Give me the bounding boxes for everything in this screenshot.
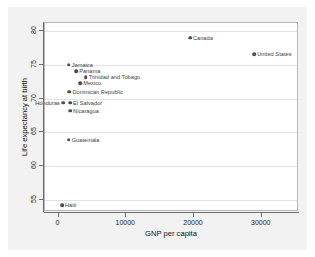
y-tick-mark (39, 131, 43, 132)
data-point-label: Canada (193, 35, 213, 41)
gridline-y (45, 166, 297, 167)
x-tick-label: 30000 (251, 219, 270, 226)
data-point-label: Haiti (65, 202, 76, 208)
y-tick-mark (39, 199, 43, 200)
y-axis-line (43, 22, 44, 212)
data-point-label: Mexico (83, 80, 101, 86)
data-point-label: Nicaragua (73, 108, 99, 114)
data-point-marker[interactable] (68, 109, 72, 113)
y-tick-label: 60 (30, 161, 37, 169)
x-tick-label: 20000 (183, 219, 202, 226)
data-point-marker[interactable] (74, 69, 78, 73)
data-point-label: Dominican Republic (72, 89, 123, 95)
gridline-y (45, 200, 297, 201)
data-point-marker[interactable] (252, 52, 256, 56)
data-point-marker[interactable] (67, 63, 71, 67)
data-point-marker[interactable] (188, 36, 192, 40)
y-tick-mark (39, 30, 43, 31)
x-tick-label: 10000 (116, 219, 135, 226)
x-tick-mark (125, 213, 126, 217)
y-tick-label: 55 (30, 195, 37, 203)
data-point-marker[interactable] (61, 101, 65, 105)
data-point-label: Guatemala (72, 137, 100, 143)
y-tick-mark (39, 165, 43, 166)
plot-area: CanadaUnited StatesJamaicaPanamaTrinidad… (44, 22, 298, 211)
data-point-label: Honduras (35, 100, 60, 106)
y-tick-label: 65 (30, 127, 37, 135)
x-tick-mark (58, 213, 59, 217)
y-tick-mark (39, 98, 43, 99)
scatter-plot-figure: CanadaUnited StatesJamaicaPanamaTrinidad… (0, 0, 315, 257)
gridline-y (45, 132, 297, 133)
x-tick-mark (261, 213, 262, 217)
y-tick-label: 70 (30, 94, 37, 102)
x-axis-title: GNP per capita (145, 229, 197, 238)
data-point-marker[interactable] (60, 203, 64, 207)
x-tick-mark (193, 213, 194, 217)
data-point-marker[interactable] (78, 81, 82, 85)
data-point-label: El Salvador (73, 100, 102, 106)
data-point-marker[interactable] (84, 75, 88, 79)
y-tick-label: 80 (30, 26, 37, 34)
y-tick-label: 75 (30, 60, 37, 68)
gridline-y (45, 31, 297, 32)
y-tick-mark (39, 64, 43, 65)
y-axis-title: Life expectancy at birth (20, 78, 29, 156)
data-point-marker[interactable] (67, 138, 71, 142)
data-point-label: United States (257, 51, 291, 57)
data-point-marker[interactable] (68, 90, 72, 94)
data-point-marker[interactable] (68, 101, 72, 105)
x-tick-label: 0 (56, 219, 60, 226)
